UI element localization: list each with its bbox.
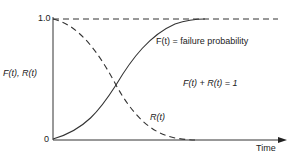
r-curve-label: R(t) xyxy=(150,113,165,122)
y-axis-label: F(t), R(t) xyxy=(3,69,37,78)
y-tick-1: 1.0 xyxy=(38,14,51,23)
y-tick-0: 0 xyxy=(44,135,49,144)
f-curve-label: F(t) = failure probability xyxy=(156,37,248,46)
identity-annotation: F(t) + R(t) = 1 xyxy=(183,79,238,88)
x-axis-label: Time xyxy=(256,144,276,153)
x-axis-arrow-icon xyxy=(278,137,287,143)
